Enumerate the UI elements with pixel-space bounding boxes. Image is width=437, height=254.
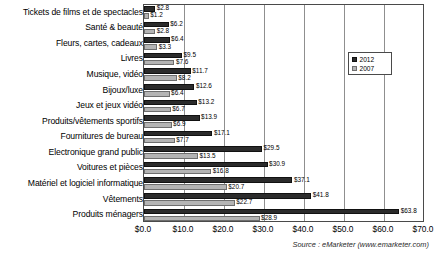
chart-row: Voitures et pièces$30.9$16.8 bbox=[0, 160, 437, 176]
bar-group: $12.6$6.4 bbox=[144, 82, 424, 98]
bar-value-2007: $16.8 bbox=[213, 168, 229, 174]
bar-group: $63.8$28.9 bbox=[144, 206, 424, 222]
bar-value-2007: $22.7 bbox=[236, 199, 252, 205]
category-label: Bijoux/luxe bbox=[103, 85, 143, 95]
source-note: Source : eMarketer (www.emarketer.com) bbox=[293, 240, 430, 249]
bar-value-2012: $41.8 bbox=[313, 192, 329, 198]
chart-row: Matériel et logiciel informatique$37.1$2… bbox=[0, 175, 437, 191]
bar-value-2012: $6.2 bbox=[170, 21, 182, 27]
legend-swatch-2012-icon bbox=[352, 57, 357, 62]
bar-value-2007: $20.7 bbox=[228, 184, 244, 190]
chart-row: Produits/vêtements sportifs$13.9$6.9 bbox=[0, 113, 437, 129]
bar-group: $41.8$22.7 bbox=[144, 191, 424, 207]
bar-2007[interactable] bbox=[144, 169, 211, 175]
category-label: Electronique grand public bbox=[49, 147, 143, 157]
bar-2007[interactable] bbox=[144, 122, 172, 128]
bar-group: $30.9$16.8 bbox=[144, 160, 424, 176]
bar-value-2012: $30.9 bbox=[269, 161, 285, 167]
bar-value-2007: $7.6 bbox=[176, 59, 188, 65]
category-label: Livres bbox=[121, 53, 143, 63]
x-axis-tick-label: $40.0 bbox=[293, 224, 314, 234]
bar-value-2012: $11.7 bbox=[192, 68, 208, 74]
bar-2007[interactable] bbox=[144, 75, 177, 81]
x-axis-tick-label: $0.0 bbox=[135, 224, 151, 234]
bar-value-2012: $12.6 bbox=[196, 83, 212, 89]
bar-value-2012: $17.1 bbox=[214, 130, 230, 136]
x-axis: $0.0$10.0$20.0$30.0$40.0$50.0$60.0$70.0 bbox=[0, 224, 437, 238]
category-label: Fleurs, cartes, cadeaux bbox=[56, 38, 143, 48]
bar-value-2012: $29.5 bbox=[264, 145, 280, 151]
category-label: Vêtements bbox=[103, 194, 143, 204]
bar-value-2007: $13.5 bbox=[200, 153, 216, 159]
bar-value-2012: $37.1 bbox=[294, 177, 310, 183]
chart-row: Vêtements$41.8$22.7 bbox=[0, 191, 437, 207]
bar-2012[interactable] bbox=[144, 84, 194, 90]
bar-2007[interactable] bbox=[144, 60, 174, 66]
legend-swatch-2007-icon bbox=[352, 66, 357, 71]
chart-row: Electronique grand public$29.5$13.5 bbox=[0, 144, 437, 160]
bar-value-2007: $7.7 bbox=[176, 137, 188, 143]
category-label: Tickets de films et de spectacles bbox=[23, 7, 143, 17]
bar-2007[interactable] bbox=[144, 200, 235, 206]
bar-2007[interactable] bbox=[144, 91, 170, 97]
legend-item-2007[interactable]: 2007 bbox=[352, 64, 391, 73]
bar-value-2007: $6.9 bbox=[173, 121, 185, 127]
bar-group: $13.2$6.7 bbox=[144, 97, 424, 113]
bar-group: $6.2$2.8 bbox=[144, 20, 424, 36]
category-label: Santé & beauté bbox=[85, 22, 143, 32]
bar-value-2012: $13.2 bbox=[198, 99, 214, 105]
bar-2012[interactable] bbox=[144, 100, 197, 106]
bar-2007[interactable] bbox=[144, 107, 171, 113]
bar-2007[interactable] bbox=[144, 153, 198, 159]
bar-group: $29.5$13.5 bbox=[144, 144, 424, 160]
category-label: Produits/vêtements sportifs bbox=[42, 116, 143, 126]
x-axis-tick-label: $50.0 bbox=[333, 224, 354, 234]
bar-2012[interactable] bbox=[144, 37, 170, 43]
bar-group: $6.4$3.3 bbox=[144, 35, 424, 51]
x-axis-tick-label: $10.0 bbox=[173, 224, 194, 234]
category-label: Produits ménagers bbox=[73, 209, 143, 219]
bar-2012[interactable] bbox=[144, 162, 268, 168]
chart-row: Bijoux/luxe$12.6$6.4 bbox=[0, 82, 437, 98]
legend-label-2007: 2007 bbox=[360, 65, 375, 72]
bar-chart: Tickets de films et de spectacles$2.8$1.… bbox=[0, 0, 437, 254]
bar-value-2012: $6.4 bbox=[171, 36, 183, 42]
chart-row: Jeux et jeux vidéo$13.2$6.7 bbox=[0, 97, 437, 113]
legend-item-2012[interactable]: 2012 bbox=[352, 55, 391, 64]
bar-2007[interactable] bbox=[144, 29, 155, 35]
chart-row: Produits ménagers$63.8$28.9 bbox=[0, 206, 437, 222]
bar-value-2012: $13.9 bbox=[201, 114, 217, 120]
bar-2012[interactable] bbox=[144, 177, 292, 183]
bar-2007[interactable] bbox=[144, 138, 175, 144]
bar-2012[interactable] bbox=[144, 193, 311, 199]
legend-label-2012: 2012 bbox=[360, 56, 375, 63]
x-axis-tick-label: $60.0 bbox=[373, 224, 394, 234]
bar-value-2007: $6.4 bbox=[171, 90, 183, 96]
bar-value-2007: $2.8 bbox=[157, 28, 169, 34]
bar-2012[interactable] bbox=[144, 115, 200, 121]
bar-2007[interactable] bbox=[144, 216, 260, 222]
category-label: Musique, vidéo bbox=[87, 69, 143, 79]
chart-row: Tickets de films et de spectacles$2.8$1.… bbox=[0, 4, 437, 20]
category-label: Matériel et logiciel informatique bbox=[28, 178, 143, 188]
x-axis-tick-label: $70.0 bbox=[413, 224, 434, 234]
bar-group: $37.1$20.7 bbox=[144, 175, 424, 191]
chart-legend: 2012 2007 bbox=[348, 52, 392, 75]
bar-2007[interactable] bbox=[144, 13, 149, 19]
x-axis-tick-label: $30.0 bbox=[253, 224, 274, 234]
bar-group: $17.1$7.7 bbox=[144, 129, 424, 145]
chart-row: Santé & beauté$6.2$2.8 bbox=[0, 20, 437, 36]
bar-value-2012: $63.8 bbox=[401, 208, 417, 214]
category-label: Voitures et pièces bbox=[77, 162, 143, 172]
bar-value-2007: $1.2 bbox=[150, 12, 162, 18]
bar-2007[interactable] bbox=[144, 44, 157, 50]
bar-2012[interactable] bbox=[144, 146, 262, 152]
category-label: Jeux et jeux vidéo bbox=[76, 100, 143, 110]
x-axis-tick-label: $20.0 bbox=[213, 224, 234, 234]
bar-value-2007: $3.3 bbox=[159, 44, 171, 50]
bar-value-2007: $6.7 bbox=[172, 106, 184, 112]
bar-value-2007: $8.2 bbox=[178, 75, 190, 81]
bar-2007[interactable] bbox=[144, 184, 227, 190]
chart-row: Fleurs, cartes, cadeaux$6.4$3.3 bbox=[0, 35, 437, 51]
bar-group: $2.8$1.2 bbox=[144, 4, 424, 20]
